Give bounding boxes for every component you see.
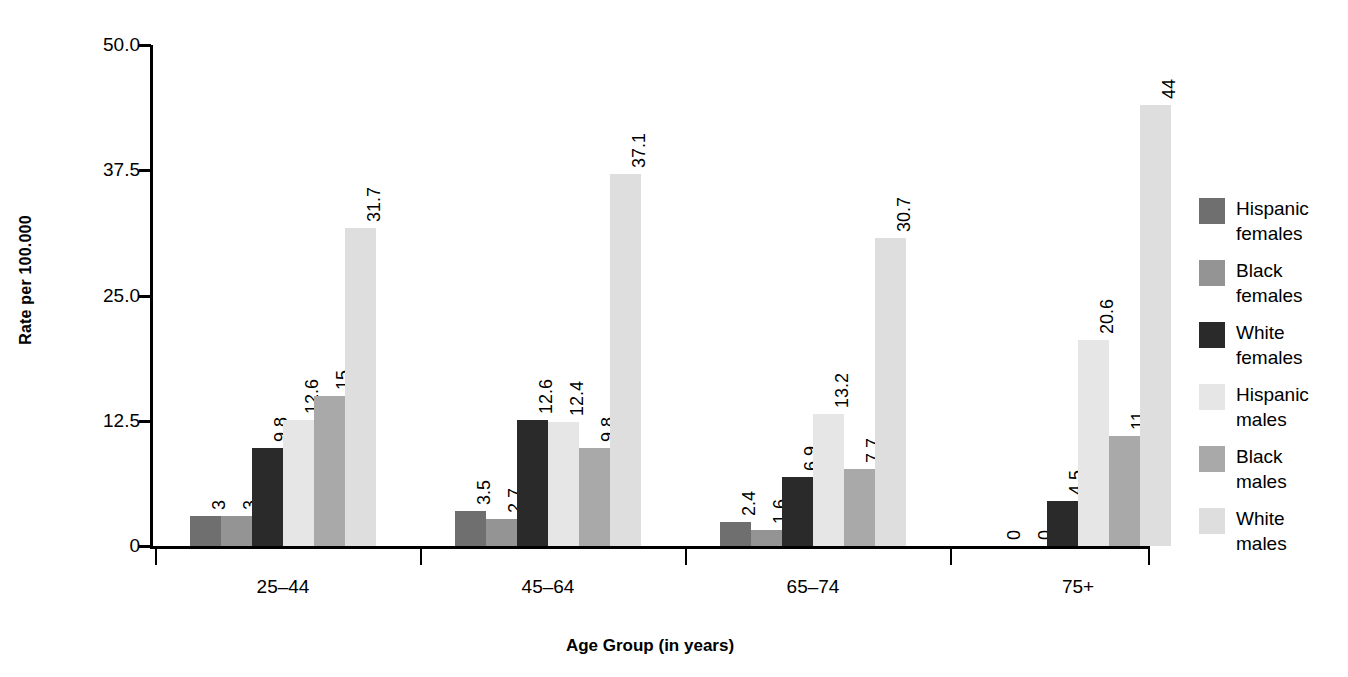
legend-item[interactable]: Black females <box>1199 258 1348 310</box>
y-axis-tick-mark <box>139 420 151 423</box>
bar[interactable] <box>1109 436 1140 546</box>
bar-wrap: 12.4 <box>548 45 579 546</box>
bar-wrap: 2.4 <box>720 45 751 546</box>
bar-wrap: 11 <box>1109 45 1140 546</box>
y-axis-tick-label: 0 <box>54 535 140 557</box>
legend-label: White females <box>1236 320 1303 370</box>
bar-wrap: 7.7 <box>844 45 875 546</box>
bar[interactable] <box>190 516 221 546</box>
bar-wrap: 9.8 <box>252 45 283 546</box>
bar[interactable] <box>345 228 376 546</box>
y-axis-tick-labels: 012.525.037.550.0 <box>44 0 140 677</box>
x-axis-tick-label: 75+ <box>1008 576 1148 598</box>
bar[interactable] <box>283 420 314 546</box>
x-axis-line <box>150 546 1150 549</box>
bar[interactable] <box>844 469 875 546</box>
bar-wrap: 37.1 <box>610 45 641 546</box>
legend-label: Black females <box>1236 258 1303 308</box>
bar[interactable] <box>579 448 610 546</box>
bar-wrap: 15 <box>314 45 345 546</box>
bar[interactable] <box>751 530 782 546</box>
legend-swatch <box>1199 446 1225 472</box>
legend-item[interactable]: Hispanic males <box>1199 382 1348 434</box>
legend-label: Hispanic females <box>1236 196 1309 246</box>
bar-wrap: 31.7 <box>345 45 376 546</box>
x-axis-tick-mark <box>155 549 157 565</box>
bar[interactable] <box>1047 501 1078 546</box>
legend-swatch <box>1199 322 1225 348</box>
bar-group: 339.812.61531.7 <box>190 45 376 546</box>
legend: Hispanic femalesBlack femalesWhite femal… <box>1199 196 1348 568</box>
bar[interactable] <box>517 420 548 546</box>
y-axis-tick-mark <box>139 44 151 47</box>
legend-item[interactable]: Black males <box>1199 444 1348 496</box>
bar-wrap: 13.2 <box>813 45 844 546</box>
bar[interactable] <box>548 422 579 546</box>
bar[interactable] <box>221 516 252 546</box>
y-axis-title: Rate per 100.000 <box>4 0 48 560</box>
bar[interactable] <box>455 511 486 546</box>
bar[interactable] <box>486 519 517 546</box>
legend-item[interactable]: Hispanic females <box>1199 196 1348 248</box>
legend-swatch <box>1199 198 1225 224</box>
y-axis-tick-label: 50.0 <box>54 34 140 56</box>
bar[interactable] <box>720 522 751 546</box>
x-axis-tick-label: 65–74 <box>743 576 883 598</box>
y-axis-tick-label: 12.5 <box>54 410 140 432</box>
legend-label: Black males <box>1236 444 1287 494</box>
legend-item[interactable]: White females <box>1199 320 1348 372</box>
bar-group: 004.520.61144 <box>985 45 1171 546</box>
y-axis-tick-mark <box>139 295 151 298</box>
bar-wrap: 2.7 <box>486 45 517 546</box>
bar[interactable] <box>1140 105 1171 546</box>
y-axis-title-text: Rate per 100.000 <box>17 215 35 345</box>
bar-wrap: 30.7 <box>875 45 906 546</box>
y-axis-tick-mark <box>139 545 151 548</box>
legend-swatch <box>1199 508 1225 534</box>
bar-wrap: 12.6 <box>517 45 548 546</box>
plot-area: 339.812.61531.73.52.712.612.49.837.12.41… <box>150 45 1150 546</box>
bar[interactable] <box>1078 340 1109 546</box>
bar[interactable] <box>314 396 345 546</box>
bar-wrap: 3 <box>221 45 252 546</box>
x-axis-tick-mark <box>950 549 952 565</box>
bar[interactable] <box>875 238 906 546</box>
x-axis-tick-label: 45–64 <box>478 576 618 598</box>
bar[interactable] <box>252 448 283 546</box>
x-axis-tick-label: 25–44 <box>213 576 353 598</box>
bar-wrap: 0 <box>1016 45 1047 546</box>
bar-wrap: 4.5 <box>1047 45 1078 546</box>
bar-group: 3.52.712.612.49.837.1 <box>455 45 641 546</box>
x-axis-tick-mark <box>1148 549 1150 565</box>
legend-swatch <box>1199 260 1225 286</box>
y-axis-tick-label: 37.5 <box>54 159 140 181</box>
bar-wrap: 20.6 <box>1078 45 1109 546</box>
x-axis-title: Age Group (in years) <box>150 636 1150 656</box>
bar-wrap: 0 <box>985 45 1016 546</box>
y-axis-tick-label: 25.0 <box>54 285 140 307</box>
bar-wrap: 3.5 <box>455 45 486 546</box>
x-axis-tick-mark <box>420 549 422 565</box>
bar-wrap: 3 <box>190 45 221 546</box>
bar-group: 2.41.66.913.27.730.7 <box>720 45 906 546</box>
legend-label: Hispanic males <box>1236 382 1309 432</box>
bar-wrap: 9.8 <box>579 45 610 546</box>
legend-label: White males <box>1236 506 1287 556</box>
bar-chart: Rate per 100.000 012.525.037.550.0 339.8… <box>0 0 1348 677</box>
bar-wrap: 6.9 <box>782 45 813 546</box>
legend-swatch <box>1199 384 1225 410</box>
bar-wrap: 1.6 <box>751 45 782 546</box>
x-axis-tick-mark <box>685 549 687 565</box>
bar-wrap: 44 <box>1140 45 1171 546</box>
bar[interactable] <box>782 477 813 546</box>
bar[interactable] <box>813 414 844 546</box>
legend-item[interactable]: White males <box>1199 506 1348 558</box>
bar-wrap: 12.6 <box>283 45 314 546</box>
bar[interactable] <box>610 174 641 546</box>
y-axis-tick-mark <box>139 169 151 172</box>
